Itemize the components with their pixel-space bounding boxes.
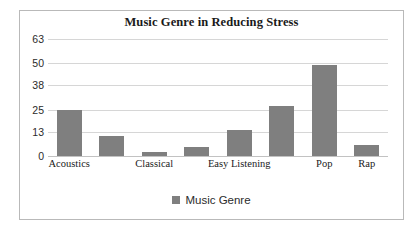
plot-area xyxy=(48,39,388,156)
bar-country xyxy=(184,147,209,156)
x-axis-label-easy-listening: Easy Listening xyxy=(208,158,271,169)
bar-series xyxy=(48,39,388,156)
y-axis-tick-25: 25 xyxy=(32,104,44,116)
legend-label: Music Genre xyxy=(185,194,250,206)
x-axis-label-classical: Classical xyxy=(135,158,173,169)
chart-title: Music Genre in Reducing Stress xyxy=(20,15,403,30)
gridline-0 xyxy=(48,156,388,157)
bar-easy-listening xyxy=(227,130,252,156)
bar-jazz xyxy=(269,106,294,156)
x-axis-label-pop: Pop xyxy=(316,158,332,169)
y-axis-tick-0: 0 xyxy=(38,150,44,162)
bar-classical xyxy=(142,152,167,156)
bar-rap xyxy=(354,145,379,156)
y-axis-tick-63: 63 xyxy=(32,33,44,45)
y-axis-tick-50: 50 xyxy=(32,57,44,69)
bar-acoustics xyxy=(57,110,82,156)
chart-container: Music Genre in Reducing Stress 013253850… xyxy=(19,10,404,220)
x-axis: AcousticsClassicalEasy ListeningPopRap xyxy=(48,158,388,174)
x-axis-label-rap: Rap xyxy=(358,158,375,169)
legend-swatch-icon xyxy=(172,196,180,204)
bar-blues xyxy=(99,136,124,156)
y-axis-tick-38: 38 xyxy=(32,79,44,91)
y-axis-tick-13: 13 xyxy=(32,126,44,138)
chart-legend: Music Genre xyxy=(20,194,403,206)
x-axis-label-acoustics: Acoustics xyxy=(49,158,90,169)
bar-pop xyxy=(312,65,337,156)
y-axis: 01325385063 xyxy=(20,39,46,156)
